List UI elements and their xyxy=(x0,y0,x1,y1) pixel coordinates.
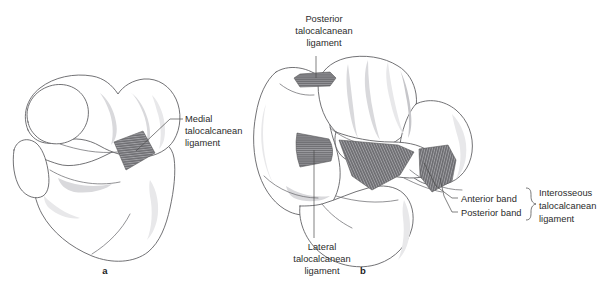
posterior-label-line3: ligament xyxy=(306,38,342,48)
lateral-label-line1: Lateral xyxy=(308,242,336,252)
label-anterior-band: Anterior band xyxy=(461,194,517,204)
posterior-label-line1: Posterior xyxy=(305,14,342,24)
lateral-label-line2: talocalcanean xyxy=(293,254,350,264)
panel-letter-b: b xyxy=(360,265,366,276)
lateral-label-line3: ligament xyxy=(304,266,340,276)
medial-label-line3: ligament xyxy=(185,138,221,148)
label-posterior-band: Posterior band xyxy=(461,208,521,218)
anatomical-figure: Medial talocalcanean ligament a xyxy=(0,0,599,291)
medial-label-line2: talocalcanean xyxy=(185,126,242,136)
panel-letter-a: a xyxy=(102,265,108,276)
posterior-label-line2: talocalcanean xyxy=(295,26,352,36)
interosseous-label-line3: ligament xyxy=(539,214,575,224)
talar-head-a xyxy=(27,84,88,143)
interosseous-label-line2: talocalcanean xyxy=(539,201,596,211)
interosseous-label-line1: Interosseous xyxy=(539,188,593,198)
posterior-talocalcanean-ligament xyxy=(294,72,336,87)
medial-label-line1: Medial xyxy=(185,114,212,124)
figure-canvas: Medial talocalcanean ligament a xyxy=(0,0,599,291)
